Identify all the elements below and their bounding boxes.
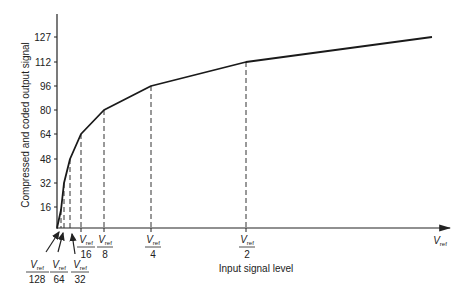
svg-text:80: 80: [40, 105, 52, 116]
svg-text:16: 16: [80, 249, 92, 260]
svg-text:128: 128: [29, 274, 46, 285]
svg-text:127: 127: [34, 32, 51, 43]
svg-text:Vref: Vref: [98, 234, 112, 246]
x-label-vref-128: Vref 128: [26, 259, 49, 285]
svg-text:48: 48: [40, 154, 52, 165]
x-axis-title: Input signal level: [219, 263, 294, 274]
svg-text:Vref: Vref: [73, 259, 87, 271]
y-tick-labels: 127 112 96 80 64 48 32 16: [34, 32, 51, 213]
svg-text:96: 96: [40, 81, 52, 92]
y-axis-title: Compressed and coded output signal: [20, 42, 31, 208]
svg-text:112: 112: [35, 57, 51, 68]
x-label-vref-2: Vref 2: [239, 234, 255, 260]
breakpoint-arrows: [46, 232, 75, 254]
svg-text:Vref: Vref: [30, 259, 44, 271]
svg-text:Vref: Vref: [433, 235, 447, 247]
svg-text:Vref: Vref: [52, 259, 66, 271]
svg-text:2: 2: [244, 249, 250, 260]
svg-text:64: 64: [40, 129, 52, 140]
svg-text:Vref: Vref: [79, 234, 93, 246]
svg-text:Vref: Vref: [240, 234, 254, 246]
svg-text:32: 32: [74, 274, 86, 285]
compression-curve: [57, 37, 432, 228]
x-label-vref-64: Vref 64: [50, 259, 68, 285]
svg-text:64: 64: [53, 274, 65, 285]
svg-text:4: 4: [150, 249, 156, 260]
x-label-vref-32: Vref 32: [71, 259, 89, 285]
x-label-vref: Vref: [433, 235, 447, 247]
svg-text:16: 16: [40, 202, 52, 213]
compression-chart: 127 112 96 80 64 48 32 16 Compressed and…: [0, 0, 469, 292]
x-label-vref-8: Vref 8: [97, 234, 113, 260]
x-label-vref-16: Vref 16: [77, 234, 95, 260]
breakpoint-drop-lines: [61, 62, 246, 228]
svg-text:32: 32: [40, 178, 52, 189]
svg-text:8: 8: [102, 249, 108, 260]
svg-text:Vref: Vref: [146, 234, 160, 246]
x-label-vref-4: Vref 4: [145, 234, 161, 260]
